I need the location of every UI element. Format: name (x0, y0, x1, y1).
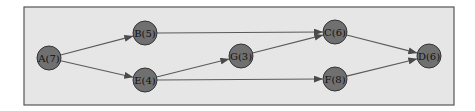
node-label: B(5) (134, 28, 156, 39)
node-label: C(6) (324, 27, 346, 38)
node-g: G(3) (229, 44, 253, 68)
node-label: E(4) (134, 75, 156, 86)
node-d: D(6) (417, 44, 441, 68)
node-label: G(3) (230, 51, 252, 62)
node-b: B(5) (133, 21, 157, 45)
node-c: C(6) (323, 20, 347, 44)
node-a: A(7) (37, 46, 61, 70)
node-e: E(4) (133, 68, 157, 92)
node-label: D(6) (418, 51, 440, 62)
graph-diagram: A(7)B(5)E(4)G(3)C(6)F(8)D(6) (0, 0, 475, 111)
node-label: F(8) (324, 74, 345, 85)
node-label: A(7) (37, 53, 59, 64)
node-f: F(8) (323, 67, 347, 91)
